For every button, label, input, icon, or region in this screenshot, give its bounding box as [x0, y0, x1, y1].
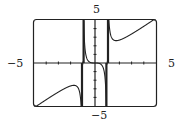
function-curve: [34, 85, 81, 106]
function-plot: [0, 0, 178, 124]
function-curve: [109, 20, 156, 41]
